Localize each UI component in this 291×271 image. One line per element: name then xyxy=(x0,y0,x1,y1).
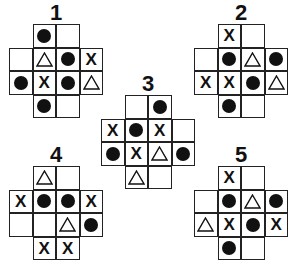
x-mark-icon: X xyxy=(62,240,73,257)
filled-circle-icon xyxy=(222,99,236,113)
grid-cell[interactable] xyxy=(265,71,289,95)
x-mark-icon: X xyxy=(15,193,26,210)
puzzle-grid-2: 2XXX xyxy=(194,2,288,118)
grid-cell[interactable] xyxy=(56,71,80,95)
grid-cell[interactable] xyxy=(125,95,149,119)
filled-circle-icon xyxy=(222,194,236,208)
grid-cell[interactable] xyxy=(33,190,57,214)
filled-circle-icon xyxy=(61,52,75,66)
grid-cell[interactable] xyxy=(241,213,265,237)
grid-cell[interactable] xyxy=(9,213,33,237)
triangle-icon xyxy=(244,194,261,209)
grid-cell[interactable] xyxy=(56,166,80,190)
filled-circle-icon xyxy=(176,147,190,161)
grid-cell[interactable] xyxy=(265,190,289,214)
grid-cell[interactable] xyxy=(80,213,104,237)
triangle-icon xyxy=(151,146,168,161)
grid-cell[interactable]: X xyxy=(194,71,218,95)
grid-cell[interactable] xyxy=(101,142,125,166)
grid-cell[interactable]: X xyxy=(9,190,33,214)
x-mark-icon: X xyxy=(107,122,118,139)
grid-cell[interactable] xyxy=(33,48,57,72)
grid-cell[interactable] xyxy=(194,48,218,72)
grid-cell[interactable] xyxy=(218,190,242,214)
grid-cell[interactable] xyxy=(56,48,80,72)
filled-circle-icon xyxy=(153,100,167,114)
x-mark-icon: X xyxy=(224,216,235,233)
grid-cell[interactable] xyxy=(265,48,289,72)
grid-cell[interactable] xyxy=(33,95,57,119)
grid-cell[interactable]: X xyxy=(101,119,125,143)
grid-cell[interactable] xyxy=(56,190,80,214)
triangle-icon xyxy=(59,217,76,232)
grid-cell[interactable] xyxy=(241,24,265,48)
grid-cell[interactable]: X xyxy=(33,71,57,95)
puzzle-grid-3: 3XXX xyxy=(101,73,195,189)
filled-circle-icon xyxy=(37,29,51,43)
puzzle-grid-1: 1XX xyxy=(9,2,103,118)
puzzle-grid-5: 5XXX xyxy=(194,144,288,260)
grid-cell[interactable] xyxy=(148,166,172,190)
grid-cell[interactable] xyxy=(241,190,265,214)
puzzle-number: 3 xyxy=(101,73,195,95)
grid-cell[interactable] xyxy=(148,95,172,119)
x-mark-icon: X xyxy=(86,193,97,210)
grid-cell[interactable]: X xyxy=(56,237,80,261)
grid-cell[interactable]: X xyxy=(80,190,104,214)
puzzle-number: 1 xyxy=(9,2,103,24)
filled-circle-icon xyxy=(222,52,236,66)
x-mark-icon: X xyxy=(271,216,282,233)
x-mark-icon: X xyxy=(224,27,235,44)
grid-cell[interactable] xyxy=(241,237,265,261)
triangle-icon xyxy=(83,75,100,90)
grid-cell[interactable] xyxy=(218,95,242,119)
grid-cell[interactable] xyxy=(241,71,265,95)
grid-cell[interactable] xyxy=(56,95,80,119)
filled-circle-icon xyxy=(269,194,283,208)
x-mark-icon: X xyxy=(154,122,165,139)
grid-cell[interactable] xyxy=(33,166,57,190)
grid-cell[interactable] xyxy=(218,237,242,261)
grid-cell[interactable] xyxy=(241,95,265,119)
filled-circle-icon xyxy=(14,76,28,90)
grid-cell[interactable]: X xyxy=(265,213,289,237)
grid-cell[interactable] xyxy=(241,48,265,72)
filled-circle-icon xyxy=(269,52,283,66)
grid-cell[interactable] xyxy=(9,48,33,72)
grid-cell[interactable]: X xyxy=(148,119,172,143)
x-mark-icon: X xyxy=(200,74,211,91)
grid-cell[interactable] xyxy=(218,48,242,72)
grid-cell[interactable] xyxy=(241,166,265,190)
grid-cell[interactable] xyxy=(9,71,33,95)
grid-cell[interactable] xyxy=(80,71,104,95)
grid-cell[interactable]: X xyxy=(218,71,242,95)
grid-cell[interactable] xyxy=(172,142,196,166)
grid-cell[interactable] xyxy=(33,213,57,237)
triangle-icon xyxy=(244,52,261,67)
x-mark-icon: X xyxy=(86,51,97,68)
grid-cell[interactable] xyxy=(56,213,80,237)
grid-cell[interactable]: X xyxy=(125,142,149,166)
grid-cell[interactable] xyxy=(33,24,57,48)
grid-cell[interactable] xyxy=(194,213,218,237)
filled-circle-icon xyxy=(61,76,75,90)
grid-cell[interactable]: X xyxy=(218,213,242,237)
grid-cell[interactable] xyxy=(172,119,196,143)
grid-cell[interactable] xyxy=(125,119,149,143)
grid-cell[interactable]: X xyxy=(218,166,242,190)
grid-cell[interactable] xyxy=(148,142,172,166)
grid-cell[interactable]: X xyxy=(218,24,242,48)
puzzle-grid-4: 4XXXX xyxy=(9,144,103,260)
filled-circle-icon xyxy=(37,99,51,113)
grid-cell[interactable] xyxy=(125,166,149,190)
triangle-icon xyxy=(268,75,285,90)
filled-circle-icon xyxy=(246,218,260,232)
grid-cell[interactable]: X xyxy=(33,237,57,261)
triangle-icon xyxy=(36,52,53,67)
triangle-icon xyxy=(197,217,214,232)
grid-cell[interactable] xyxy=(56,24,80,48)
filled-circle-icon xyxy=(222,241,236,255)
grid-cell[interactable]: X xyxy=(80,48,104,72)
grid-cell[interactable] xyxy=(194,190,218,214)
puzzle-number: 4 xyxy=(9,144,103,166)
